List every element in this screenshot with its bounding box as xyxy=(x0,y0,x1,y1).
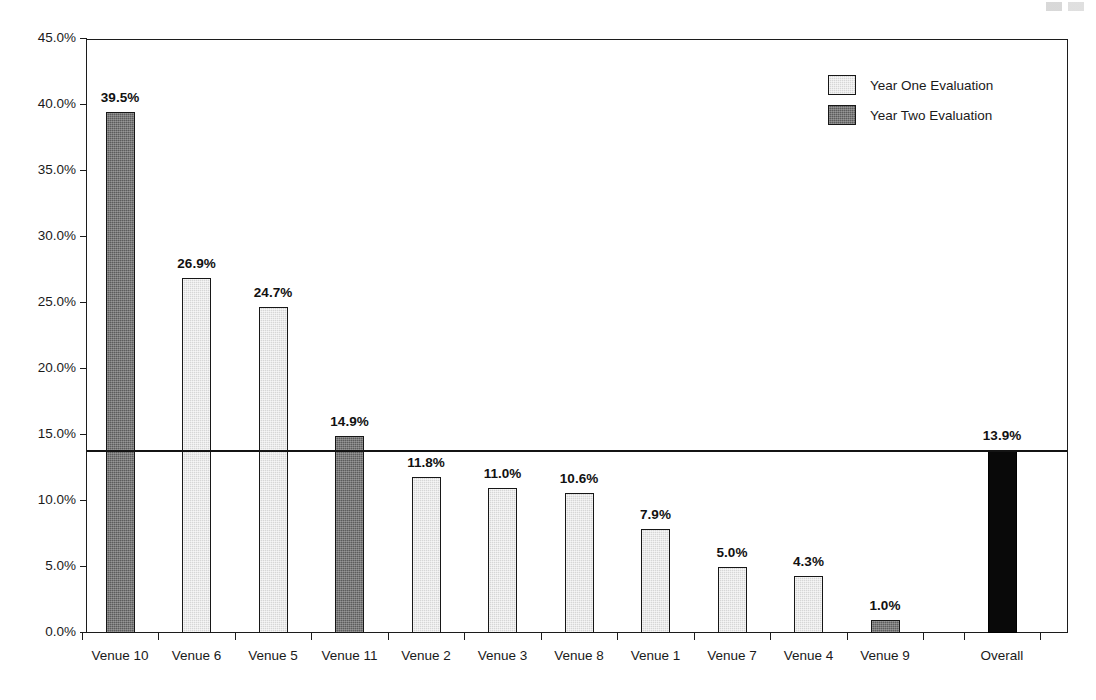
legend-swatch-year-two xyxy=(828,105,856,125)
bar-venue-5[interactable] xyxy=(259,307,288,633)
y-axis-tick-label: 0.0% xyxy=(6,624,76,639)
bar-value-label: 7.9% xyxy=(616,507,696,522)
legend-swatch-year-one xyxy=(828,75,856,95)
x-axis-tick-mark xyxy=(388,633,389,640)
y-axis-tick-label: 45.0% xyxy=(6,30,76,45)
bar-value-label: 10.6% xyxy=(539,471,619,486)
bar-value-label: 1.0% xyxy=(845,598,925,613)
legend: Year One Evaluation Year Two Evaluation xyxy=(828,70,993,130)
y-axis-tick-mark xyxy=(80,302,87,303)
y-axis-tick-mark xyxy=(80,38,87,39)
y-axis-tick-label: 10.0% xyxy=(6,492,76,507)
legend-item-year-one[interactable]: Year One Evaluation xyxy=(828,70,993,100)
bar-value-label: 11.0% xyxy=(463,466,543,481)
x-axis-tick-mark xyxy=(964,633,965,640)
legend-item-year-two[interactable]: Year Two Evaluation xyxy=(828,100,993,130)
x-axis-tick-mark xyxy=(1040,633,1041,640)
bar-value-label: 39.5% xyxy=(80,90,160,105)
x-axis-tick-mark xyxy=(923,633,924,640)
bar-venue-8[interactable] xyxy=(565,493,594,633)
bar-value-label: 5.0% xyxy=(692,545,772,560)
x-axis-tick-mark xyxy=(158,633,159,640)
x-axis-tick-mark xyxy=(311,633,312,640)
x-axis-label-venue-9: Venue 9 xyxy=(835,648,935,663)
x-axis-tick-mark xyxy=(770,633,771,640)
y-axis-tick-mark xyxy=(80,236,87,237)
x-axis-tick-mark xyxy=(82,633,83,640)
bar-value-label: 4.3% xyxy=(769,554,849,569)
x-axis-tick-mark xyxy=(541,633,542,640)
bar-venue-1[interactable] xyxy=(641,529,670,633)
bar-venue-10[interactable] xyxy=(106,112,135,633)
y-axis-tick-mark xyxy=(80,500,87,501)
y-axis-tick-label: 15.0% xyxy=(6,426,76,441)
y-axis-tick-label: 25.0% xyxy=(6,294,76,309)
y-axis-tick-mark xyxy=(80,566,87,567)
x-axis-tick-mark xyxy=(235,633,236,640)
bar-value-label: 24.7% xyxy=(233,285,313,300)
bar-value-label: 14.9% xyxy=(310,414,390,429)
x-axis-tick-mark xyxy=(464,633,465,640)
bar-venue-4[interactable] xyxy=(794,576,823,633)
legend-label-year-two: Year Two Evaluation xyxy=(870,108,992,123)
bar-value-label: 13.9% xyxy=(962,428,1042,443)
y-axis-tick-label: 40.0% xyxy=(6,96,76,111)
legend-label-year-one: Year One Evaluation xyxy=(870,78,993,93)
bar-venue-6[interactable] xyxy=(182,278,211,633)
bar-value-label: 11.8% xyxy=(386,455,466,470)
scan-artifact xyxy=(1046,2,1088,11)
overall-reference-line xyxy=(87,450,1067,452)
x-axis-tick-mark xyxy=(847,633,848,640)
y-axis-tick-label: 35.0% xyxy=(6,162,76,177)
y-axis-tick-mark xyxy=(80,368,87,369)
x-axis-tick-mark xyxy=(617,633,618,640)
bar-venue-9[interactable] xyxy=(871,620,900,633)
bar-venue-7[interactable] xyxy=(718,567,747,633)
bar-venue-11[interactable] xyxy=(335,436,364,633)
y-axis-tick-mark xyxy=(80,170,87,171)
y-axis-tick-label: 5.0% xyxy=(6,558,76,573)
bar-value-label: 26.9% xyxy=(157,256,237,271)
x-axis-tick-mark xyxy=(694,633,695,640)
bar-venue-2[interactable] xyxy=(412,477,441,633)
bar-overall[interactable] xyxy=(988,450,1017,633)
x-axis-label-overall: Overall xyxy=(952,648,1052,663)
y-axis-tick-label: 20.0% xyxy=(6,360,76,375)
y-axis-tick-mark xyxy=(80,434,87,435)
bar-chart: 0.0%5.0%10.0%15.0%20.0%25.0%30.0%35.0%40… xyxy=(0,0,1096,700)
y-axis-tick-label: 30.0% xyxy=(6,228,76,243)
bar-venue-3[interactable] xyxy=(488,488,517,633)
